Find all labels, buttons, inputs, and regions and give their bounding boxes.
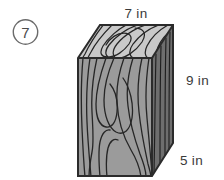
dimension-label-height: 9 in xyxy=(186,73,209,88)
question-number-text: 7 xyxy=(21,24,29,41)
dimension-label-top: 7 in xyxy=(125,6,148,21)
wood-block xyxy=(78,23,174,177)
question-number-badge: 7 xyxy=(13,20,37,44)
dimension-label-depth: 5 in xyxy=(180,153,203,168)
prism-figure: 7 xyxy=(0,0,224,180)
worksheet-figure-page: 7 xyxy=(0,0,224,180)
